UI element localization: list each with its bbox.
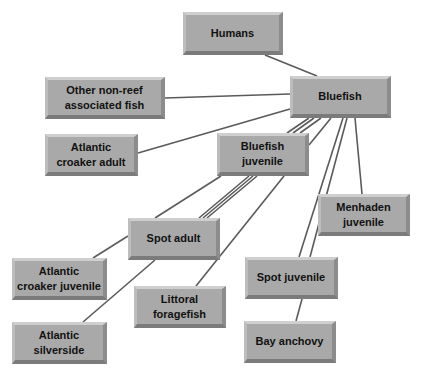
node-spot-adult: Spot adult <box>128 218 220 260</box>
node-other-non-reef: Other non-reef associated fish <box>45 77 165 119</box>
edge-bluefish-to-menhaden-juvenile <box>355 118 362 194</box>
edge-bluefish-juvenile-to-spot-adult <box>199 176 249 218</box>
edge-bluefish-juvenile-to-spot-adult <box>207 176 257 218</box>
node-littoral-foragefish: Littoral foragefish <box>134 286 226 328</box>
food-web-diagram: HumansBluefishOther non-reef associated … <box>0 0 426 380</box>
node-label: Atlantic silverside <box>34 328 85 358</box>
edge-spot-adult-to-atlantic-croaker-juvenile <box>93 236 128 258</box>
node-bay-anchovy: Bay anchovy <box>244 321 336 363</box>
node-label: Atlantic croaker adult <box>56 140 125 170</box>
edge-bluefish-to-bluefish-juvenile <box>287 118 309 133</box>
edge-bluefish-to-spot-juvenile <box>310 118 347 257</box>
node-label: Bluefish juvenile <box>241 139 284 169</box>
node-atlantic-silverside: Atlantic silverside <box>12 322 107 364</box>
node-spot-juvenile: Spot juvenile <box>245 257 338 299</box>
edge-other-non-reef-to-bluefish <box>165 94 290 98</box>
node-label: Spot adult <box>147 231 201 246</box>
edge-humans-to-bluefish <box>265 55 317 76</box>
node-label: Littoral foragefish <box>153 292 206 322</box>
node-label: Menhaden juvenile <box>336 200 390 230</box>
node-label: Humans <box>211 26 254 41</box>
node-label: Bay anchovy <box>256 334 324 349</box>
edge-bluefish-to-bluefish-juvenile <box>309 118 331 145</box>
node-label: Bluefish <box>318 89 361 104</box>
node-bluefish: Bluefish <box>290 76 391 118</box>
edge-spot-juvenile-to-bay-anchovy <box>296 299 302 321</box>
node-label: Other non-reef associated fish <box>65 83 144 113</box>
node-bluefish-juvenile: Bluefish juvenile <box>217 133 309 176</box>
node-humans: Humans <box>183 12 283 55</box>
node-label: Spot juvenile <box>257 270 325 285</box>
node-atlantic-croaker-adult: Atlantic croaker adult <box>45 134 138 176</box>
node-label: Atlantic croaker juvenile <box>17 264 101 294</box>
node-atlantic-croaker-juvenile: Atlantic croaker juvenile <box>12 258 107 300</box>
node-menhaden-juvenile: Menhaden juvenile <box>318 194 410 236</box>
